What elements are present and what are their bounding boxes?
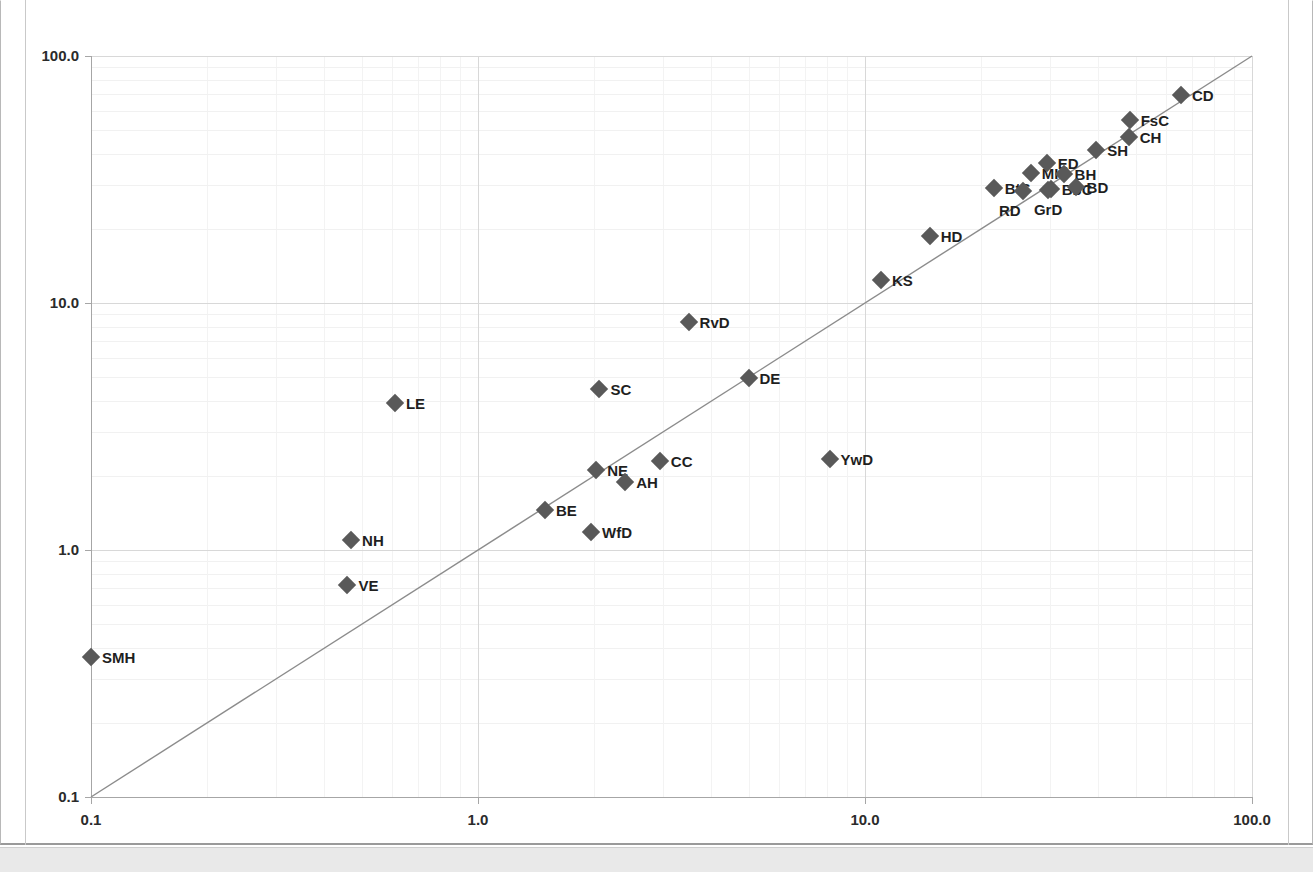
gridline-minor-horizontal bbox=[91, 648, 1252, 649]
gridline-minor-horizontal bbox=[91, 130, 1252, 131]
gridline-minor-vertical bbox=[711, 56, 712, 797]
gridline-minor-horizontal bbox=[91, 476, 1252, 477]
data-point-label: CD bbox=[1192, 87, 1214, 104]
x-axis-tick-mark bbox=[478, 797, 479, 804]
data-point-marker[interactable] bbox=[679, 312, 697, 330]
data-point-label: WfD bbox=[602, 524, 632, 541]
gridline-minor-horizontal bbox=[91, 314, 1252, 315]
data-point-label: DE bbox=[760, 370, 781, 387]
x-axis-tick-label: 10.0 bbox=[815, 811, 915, 828]
data-point-marker[interactable] bbox=[82, 647, 100, 665]
gridline-minor-vertical bbox=[1136, 56, 1137, 797]
y-axis-tick-mark bbox=[85, 303, 91, 304]
gridline-major-horizontal bbox=[91, 303, 1252, 304]
data-point-label: BE bbox=[556, 502, 577, 519]
gridline-major-horizontal bbox=[91, 56, 1252, 57]
data-point-marker[interactable] bbox=[536, 501, 554, 519]
gridline-minor-horizontal bbox=[91, 94, 1252, 95]
gridline-minor-vertical bbox=[1166, 56, 1167, 797]
data-point-label: LE bbox=[406, 394, 425, 411]
gridline-minor-vertical bbox=[805, 56, 806, 797]
gridline-minor-vertical bbox=[779, 56, 780, 797]
x-axis-line bbox=[91, 797, 1252, 798]
gridline-minor-vertical bbox=[749, 56, 750, 797]
gridline-minor-vertical bbox=[847, 56, 848, 797]
gridline-minor-horizontal bbox=[91, 723, 1252, 724]
data-point-label: FsC bbox=[1141, 112, 1169, 129]
gridline-minor-vertical bbox=[1098, 56, 1099, 797]
x-axis-tick-mark bbox=[91, 797, 92, 804]
gridline-major-horizontal bbox=[91, 550, 1252, 551]
gridline-minor-vertical bbox=[207, 56, 208, 797]
data-point-marker[interactable] bbox=[338, 576, 356, 594]
data-point-label: HD bbox=[941, 228, 963, 245]
data-point-marker[interactable] bbox=[984, 178, 1002, 196]
gridline-minor-vertical bbox=[392, 56, 393, 797]
y-axis-tick-mark bbox=[85, 550, 91, 551]
data-point-label: SH bbox=[1107, 141, 1128, 158]
gridline-minor-vertical bbox=[1214, 56, 1215, 797]
gridline-minor-vertical bbox=[418, 56, 419, 797]
data-point-label: KS bbox=[892, 271, 913, 288]
data-point-label: RD bbox=[999, 201, 1021, 218]
data-point-marker[interactable] bbox=[820, 450, 838, 468]
gridline-minor-horizontal bbox=[91, 111, 1252, 112]
gridline-major-vertical bbox=[1252, 56, 1253, 797]
gridline-minor-horizontal bbox=[91, 679, 1252, 680]
data-point-label: CC bbox=[671, 452, 693, 469]
x-axis-tick-label: 1.0 bbox=[428, 811, 528, 828]
gridline-minor-horizontal bbox=[91, 624, 1252, 625]
data-point-marker[interactable] bbox=[739, 369, 757, 387]
y-axis-tick-mark bbox=[85, 56, 91, 57]
gridline-minor-horizontal bbox=[91, 377, 1252, 378]
x-axis-tick-label: 0.1 bbox=[41, 811, 141, 828]
gridline-minor-vertical bbox=[663, 56, 664, 797]
gridline-minor-vertical bbox=[362, 56, 363, 797]
taskbar[interactable] bbox=[0, 847, 1313, 872]
y-axis-tick-label: 1.0 bbox=[0, 541, 79, 558]
y-axis-tick-label: 100.0 bbox=[0, 47, 79, 64]
gridline-minor-horizontal bbox=[91, 67, 1252, 68]
x-axis-tick-mark bbox=[1252, 797, 1253, 804]
gridline-minor-horizontal bbox=[91, 605, 1252, 606]
gridline-minor-horizontal bbox=[91, 358, 1252, 359]
data-point-label: SC bbox=[610, 380, 631, 397]
gridline-minor-vertical bbox=[981, 56, 982, 797]
gridline-minor-horizontal bbox=[91, 588, 1252, 589]
data-point-label: SMH bbox=[102, 648, 135, 665]
gridline-minor-vertical bbox=[1192, 56, 1193, 797]
y-axis-tick-label: 10.0 bbox=[0, 294, 79, 311]
gridline-minor-horizontal bbox=[91, 401, 1252, 402]
data-point-label: AH bbox=[636, 474, 658, 491]
data-point-label: CH bbox=[1140, 128, 1162, 145]
data-point-marker[interactable] bbox=[342, 531, 360, 549]
data-point-marker[interactable] bbox=[582, 523, 600, 541]
gridline-minor-vertical bbox=[827, 56, 828, 797]
gridline-minor-vertical bbox=[594, 56, 595, 797]
x-axis-tick-mark bbox=[865, 797, 866, 804]
gridline-minor-vertical bbox=[460, 56, 461, 797]
x-axis-tick-label: 100.0 bbox=[1202, 811, 1302, 828]
screenshot-root: SMHVENHLEBEWfDNESCAHCCRvDDEYwDKSHDBtSRDM… bbox=[0, 0, 1313, 872]
gridline-minor-horizontal bbox=[91, 327, 1252, 328]
gridline-minor-vertical bbox=[1234, 56, 1235, 797]
gridline-minor-horizontal bbox=[91, 574, 1252, 575]
gridline-minor-horizontal bbox=[91, 341, 1252, 342]
data-point-label: YwD bbox=[841, 451, 874, 468]
data-point-label: GrD bbox=[1034, 201, 1062, 218]
scatter-chart: SMHVENHLEBEWfDNESCAHCCRvDDEYwDKSHDBtSRDM… bbox=[0, 0, 1313, 845]
gridline-major-vertical bbox=[478, 56, 479, 797]
gridline-minor-horizontal bbox=[91, 432, 1252, 433]
data-point-marker[interactable] bbox=[1172, 86, 1190, 104]
gridline-minor-horizontal bbox=[91, 229, 1252, 230]
data-point-label: NH bbox=[362, 531, 384, 548]
gridline-minor-vertical bbox=[276, 56, 277, 797]
gridline-minor-horizontal bbox=[91, 561, 1252, 562]
data-point-marker[interactable] bbox=[386, 393, 404, 411]
data-point-marker[interactable] bbox=[651, 451, 669, 469]
data-point-marker[interactable] bbox=[872, 271, 890, 289]
data-point-marker[interactable] bbox=[1087, 140, 1105, 158]
gridline-major-vertical bbox=[865, 56, 866, 797]
gridline-minor-vertical bbox=[324, 56, 325, 797]
y-axis-tick-label: 0.1 bbox=[0, 788, 79, 805]
